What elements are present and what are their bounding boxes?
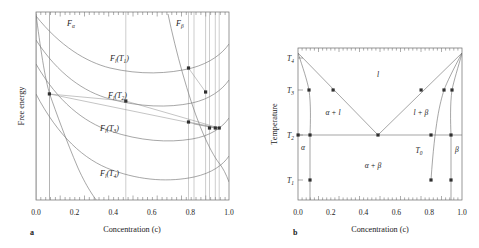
label-fl-t2: Fl(T2): [107, 91, 127, 101]
panel-a-xtick-3: 0.6: [147, 208, 157, 217]
label-fl-t1: Fl(T1): [109, 54, 129, 64]
t0-curve: [431, 53, 462, 180]
region-alpha-beta: α + β: [365, 161, 382, 170]
panel-a-xtick-4: 0.8: [186, 208, 196, 217]
panel-b-y-ticks: [298, 58, 303, 180]
label-t0: T0: [416, 146, 423, 156]
panel-b: T4 T3 T2 T1 l α + l l + β α β α + β T0: [255, 0, 479, 248]
liquidus-left: [298, 53, 378, 135]
panel-a-xtick-5: 1.0: [224, 208, 234, 217]
panel-b-ytick-t4: T4: [287, 54, 294, 64]
panel-b-ytick-t1: T1: [287, 176, 294, 186]
panel-b-xtick-1: 0.2: [326, 208, 336, 217]
panel-b-label: b: [293, 228, 298, 237]
panel-a-tangent-points: [48, 66, 221, 129]
panel-a-xaxis-label: Concentration (c): [103, 225, 161, 234]
curve-f-beta: [168, 14, 229, 182]
panel-b-xaxis-label: Concentration (c): [351, 225, 409, 234]
liquidus-right: [378, 53, 462, 135]
panel-a: Fα Fβ Fl(T1) Fl(T2) Fl(T3) Fl(T4) 0.0 0.…: [0, 0, 255, 248]
curve-fl-t3: [36, 64, 229, 141]
curve-f-alpha: [36, 14, 101, 206]
curve-fl-t1: [36, 16, 229, 73]
panel-a-label: a: [30, 228, 34, 237]
panel-a-frame: [36, 12, 229, 200]
solidus-beta: [451, 53, 462, 135]
panel-b-ytick-t3: T3: [287, 86, 294, 96]
panel-b-xtick-5: 1.0: [457, 208, 467, 217]
curve-fl-t2: [36, 40, 229, 106]
region-liquid-beta: l + β: [414, 108, 429, 117]
region-beta: β: [454, 145, 459, 154]
panel-a-bottom-ticks: [41, 196, 225, 201]
region-liquid: l: [377, 70, 379, 79]
panel-b-xtick-2: 0.4: [359, 208, 369, 217]
label-fl-t4: Fl(T4): [99, 169, 119, 179]
label-f-beta: Fβ: [175, 19, 184, 29]
figure-container: Fα Fβ Fl(T1) Fl(T2) Fl(T3) Fl(T4) 0.0 0.…: [0, 0, 479, 248]
panel-a-yaxis-label: Free energy: [17, 86, 26, 126]
panel-b-xtick-0: 0.0: [293, 208, 303, 217]
panel-b-svg: T4 T3 T2 T1 l α + l l + β α β α + β T0: [255, 0, 479, 248]
panel-b-top-ticks: [302, 48, 458, 52]
panel-a-svg: Fα Fβ Fl(T1) Fl(T2) Fl(T3) Fl(T4) 0.0 0.…: [0, 0, 255, 248]
panel-a-top-ticks: [41, 12, 225, 17]
panel-a-xtick-0: 0.0: [31, 208, 41, 217]
region-alpha-liquid: α + l: [325, 108, 340, 117]
solidus-alpha: [298, 53, 310, 135]
panel-a-xtick-1: 0.2: [70, 208, 80, 217]
panel-b-xtick-3: 0.6: [392, 208, 402, 217]
panel-a-droplines: [37, 12, 220, 200]
panel-b-frame: [298, 48, 462, 200]
label-fl-t3: Fl(T3): [99, 124, 119, 134]
region-alpha: α: [301, 143, 306, 152]
panel-b-xtick-4: 0.8: [424, 208, 434, 217]
panel-a-xtick-2: 0.4: [108, 208, 118, 217]
label-f-alpha: Fα: [66, 19, 75, 29]
panel-b-bottom-ticks: [302, 196, 458, 200]
panel-a-tangent-lines: [50, 68, 220, 128]
panel-b-ytick-t2: T2: [287, 131, 294, 141]
panel-b-yaxis-label: Temperature: [270, 103, 279, 145]
